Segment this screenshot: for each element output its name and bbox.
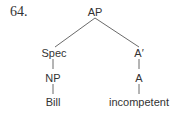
node-a: A [135,72,142,84]
node-a-bar: A′ [134,47,143,59]
node-np: NP [45,72,60,84]
leaf-incompetent: incompetent [109,96,169,108]
leaf-bill: Bill [46,96,61,108]
node-spec: Spec [41,47,66,59]
node-ap: AP [88,6,103,18]
